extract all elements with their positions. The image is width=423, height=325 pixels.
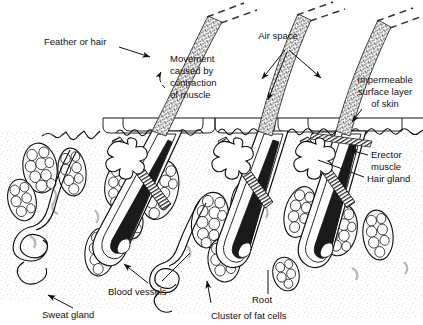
label-air-space: Air space xyxy=(258,30,298,41)
label-erector-line1: Erector xyxy=(371,149,402,160)
label-movement-line3: contraction xyxy=(170,77,216,88)
label-movement-line1: Movement xyxy=(170,53,215,64)
label-cluster-of-fat-cells: Cluster of fat cells xyxy=(211,310,287,321)
label-hair-gland: Hair gland xyxy=(367,173,410,184)
diagram-canvas: Feather or hair Movement caused by contr… xyxy=(0,0,423,325)
skin-cross-section-diagram: Feather or hair Movement caused by contr… xyxy=(0,0,423,325)
label-sweat-gland: Sweat gland xyxy=(42,309,94,320)
label-movement-line2: caused by xyxy=(170,65,214,76)
label-erector-line2: muscle xyxy=(371,161,401,172)
label-blood-vessels: Blood vessels xyxy=(108,286,167,297)
label-movement-line4: of muscle xyxy=(170,89,211,100)
label-impermeable-line1: Impermeable xyxy=(357,74,412,85)
label-impermeable-line2: surface layer xyxy=(358,86,412,97)
label-impermeable-line3: of skin xyxy=(371,98,398,109)
label-feather-or-hair: Feather or hair xyxy=(44,36,106,47)
label-root: Root xyxy=(252,294,272,305)
